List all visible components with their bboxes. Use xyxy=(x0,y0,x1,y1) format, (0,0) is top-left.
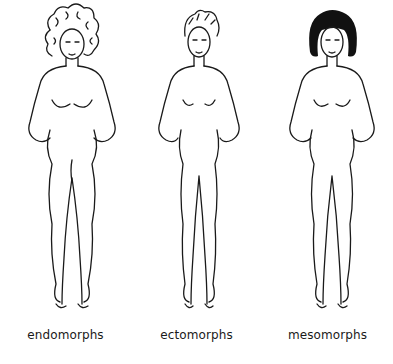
label-ectomorphs: ectomorphs xyxy=(131,328,262,342)
ectomorph-silhouette-icon xyxy=(131,0,262,330)
figure-mesomorph xyxy=(262,0,393,330)
mesomorph-silhouette-icon xyxy=(262,0,393,330)
body-types-diagram: endomorphs ectomorph xyxy=(0,0,393,364)
figure-ectomorph xyxy=(131,0,262,330)
figure-endomorph xyxy=(0,0,131,330)
label-endomorphs: endomorphs xyxy=(0,328,131,342)
endomorph-silhouette-icon xyxy=(0,0,131,330)
label-mesomorphs: mesomorphs xyxy=(262,328,393,342)
